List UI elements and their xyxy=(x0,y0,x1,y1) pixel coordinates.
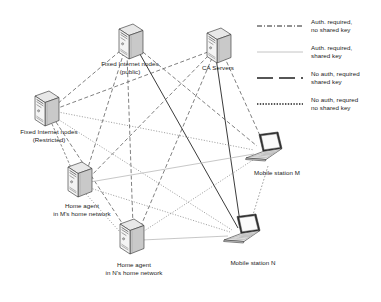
legend-line-1: No auth, required xyxy=(311,70,360,78)
node-label-home-agent-n: Home agent in N's home network xyxy=(106,261,163,276)
node-label-fixed-internet-nodes-public: Fixed Internet nodes (public) xyxy=(101,60,158,75)
legend-line-1: No auth, requred xyxy=(311,96,358,104)
legend-line-1: Auth. required, xyxy=(311,18,352,26)
legend-line-2: shared key xyxy=(311,78,360,86)
label-line-2: in N's home network xyxy=(106,269,163,277)
node-label-home-agent-m: Home agent in M's home network xyxy=(53,202,111,217)
node-label-mobile-station-m: Mobile station M xyxy=(254,169,300,177)
network-diagram-canvas: Fixed Internet nodes (public) CA Servers… xyxy=(0,0,381,302)
legend-line-2: no shared key xyxy=(311,104,358,112)
tower-computer-icon xyxy=(35,91,59,126)
laptop-icon xyxy=(246,132,282,161)
tower-computer-icon xyxy=(68,162,92,197)
node-home-agent-m[interactable] xyxy=(68,162,92,197)
legend-line-2: shared key xyxy=(311,52,352,60)
node-fixed-internet-nodes-public[interactable] xyxy=(119,24,143,59)
label-line-1: CA Servers xyxy=(202,64,234,72)
link-ca-servers-to-home-agent-n xyxy=(140,58,212,228)
node-mobile-station-m[interactable] xyxy=(246,132,282,161)
node-ca-servers[interactable] xyxy=(207,28,231,63)
link-home-agent-m-to-mobile-m xyxy=(90,154,254,182)
node-fixed-internet-nodes-restricted[interactable] xyxy=(35,91,59,126)
node-label-mobile-station-n: Mobile station N xyxy=(230,259,275,267)
node-label-fixed-internet-nodes-restricted: Fixed Internet nodes (Restricted) xyxy=(20,128,77,143)
node-label-ca-servers: CA Servers xyxy=(202,64,234,72)
legend-entry-no-auth-required-shared-key: No auth, required shared key xyxy=(311,70,360,86)
legend-samples-layer xyxy=(257,26,303,104)
label-line-2: in M's home network xyxy=(53,210,111,218)
link-fixed-public-to-home-agent-n xyxy=(127,54,133,226)
tower-computer-icon xyxy=(207,28,231,63)
label-line-1: Home agent xyxy=(106,261,163,269)
tower-computer-icon xyxy=(119,24,143,59)
link-home-agent-n-to-mobile-n xyxy=(142,236,228,240)
legend-entry-auth-required-no-shared-key: Auth. required, no shared key xyxy=(311,18,352,34)
legend-entry-no-auth-required-no-shared-key: No auth, requred no shared key xyxy=(311,96,358,112)
label-line-1: Mobile station N xyxy=(230,259,275,267)
label-line-1: Fixed Internet nodes xyxy=(20,128,77,136)
tower-computer-icon xyxy=(120,219,144,254)
legend-entry-auth-required-shared-key: Auth. required, shared key xyxy=(311,44,352,60)
legend-line-1: Auth. required, xyxy=(311,44,352,52)
label-line-1: Home agent xyxy=(53,202,111,210)
node-home-agent-n[interactable] xyxy=(120,219,144,254)
label-line-1: Mobile station M xyxy=(254,169,300,177)
label-line-1: Fixed Internet nodes xyxy=(101,60,158,68)
label-line-2: (public) xyxy=(101,68,158,76)
legend-line-2: no shared key xyxy=(311,26,352,34)
label-line-2: (Restricted) xyxy=(20,136,77,144)
